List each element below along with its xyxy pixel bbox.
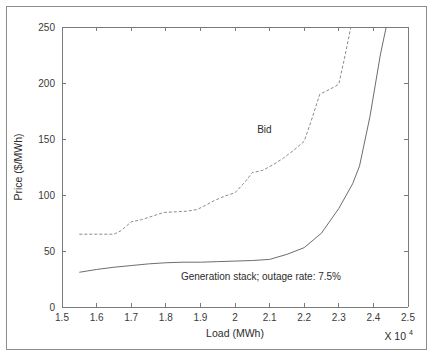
data-series <box>79 27 386 272</box>
x-tick-label: 1.9 <box>193 312 207 323</box>
x-tick-label: 1.7 <box>124 312 138 323</box>
y-tick-label: 250 <box>38 22 55 33</box>
axes <box>62 27 408 307</box>
axis-frame-lower <box>62 27 408 307</box>
series-line-generation-stack <box>79 27 386 272</box>
chart-plot: 1.51.61.71.81.922.12.22.32.42.5050100150… <box>0 0 435 358</box>
x-tick-label: 1.8 <box>159 312 173 323</box>
y-tick-label: 150 <box>38 134 55 145</box>
x-axis-exponent-power: 4 <box>409 329 413 336</box>
generation-stack-label: Generation stack; outage rate: 7.5% <box>181 271 341 282</box>
y-axis-title: Price ($/MWh) <box>12 133 24 200</box>
axis-frame-upper <box>62 27 408 307</box>
x-tick-label: 1.6 <box>90 312 104 323</box>
y-tick-label: 100 <box>38 190 55 201</box>
figure-canvas: 1.51.61.71.81.922.12.22.32.42.5050100150… <box>0 0 435 358</box>
y-tick-label: 50 <box>44 246 56 257</box>
chart-labels: 1.51.61.71.81.922.12.22.32.42.5050100150… <box>12 22 415 343</box>
y-tick-label: 200 <box>38 78 55 89</box>
x-tick-label: 2.1 <box>263 312 277 323</box>
x-tick-label: 2.3 <box>332 312 346 323</box>
y-tick-label: 0 <box>49 302 55 313</box>
series-line-bid <box>79 27 351 234</box>
x-tick-label: 2 <box>232 312 238 323</box>
bid-label: Bid <box>257 124 271 135</box>
x-tick-label: 2.5 <box>401 312 415 323</box>
x-axis-exponent: X 10 <box>384 330 406 342</box>
x-tick-label: 2.2 <box>297 312 311 323</box>
x-tick-label: 1.5 <box>55 312 69 323</box>
x-tick-label: 2.4 <box>366 312 380 323</box>
x-axis-title: Load (MWh) <box>206 327 264 339</box>
